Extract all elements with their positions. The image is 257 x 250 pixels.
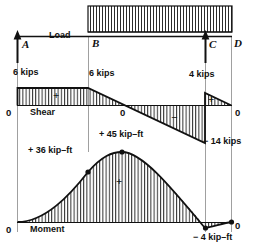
moment-title: Moment [30, 225, 65, 234]
moment-diagram [17, 149, 234, 230]
reaction-label-c: 4 kips [189, 70, 215, 79]
diagram-canvas [0, 0, 257, 250]
station-label-c: C [209, 39, 216, 50]
moment-zero-left: 0 [6, 225, 11, 235]
moment-sign-positive: + [116, 176, 122, 187]
moment-label-c: − 4 kip–ft [193, 233, 232, 242]
shear-zero-right: 0 [235, 108, 240, 118]
moment-label-b: + 36 kip–ft [28, 146, 72, 155]
shear-zero-mid: 0 [120, 108, 125, 118]
shear-sign-negative: − [171, 112, 177, 123]
moment-zero-right: 0 [235, 221, 240, 231]
moment-point-b [85, 169, 90, 174]
shear-label-negative-max: − 14 kips [203, 137, 241, 146]
shear-title: Shear [30, 108, 55, 117]
station-label-a: A [22, 39, 29, 50]
shear-zero-left: 0 [6, 108, 11, 118]
reaction-arrow-a [14, 30, 22, 63]
load-diagram [14, 6, 232, 63]
station-label-d: D [234, 38, 242, 49]
shear-label-b: 6 kips [89, 69, 115, 78]
moment-label-max: + 45 kip–ft [99, 130, 143, 139]
shear-sign-positive: + [53, 90, 59, 101]
moment-point-max [119, 149, 124, 154]
moment-point-c [203, 225, 208, 230]
shear-positive-area [18, 88, 126, 106]
beam-diagram-figure: Load A B C D 6 kips 4 kips 6 kips 0 Shea… [0, 0, 257, 250]
distributed-load-block [88, 6, 232, 32]
moment-positive-area [18, 152, 206, 226]
station-label-b: B [92, 38, 99, 49]
load-title: Load [49, 31, 71, 40]
moment-point-d [229, 219, 234, 224]
reaction-label-a: 6 kips [13, 68, 39, 77]
shear-sign-positive-right: + [208, 94, 214, 105]
